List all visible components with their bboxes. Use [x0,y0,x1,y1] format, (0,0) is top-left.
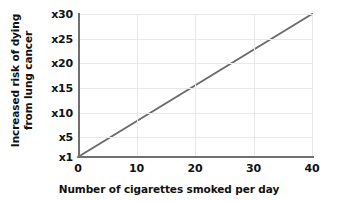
x-axis-tick-label: 10 [129,162,144,175]
x-axis-tick-label: 30 [246,162,261,175]
y-axis-title-line-2: from lung cancer [22,13,35,146]
chart-figure: Increased risk of dying from lung cancer… [0,0,338,201]
y-axis-title-line-1: Increased risk of dying [10,13,23,146]
y-axis-tick-label: x5 [40,131,73,144]
gridline-vertical [312,14,313,157]
gridline-vertical [254,14,255,157]
gridline-vertical [137,14,138,157]
x-axis-title: Number of cigarettes smoked per day [0,183,338,195]
y-axis-tick-label: x15 [40,81,73,94]
x-axis-line [78,156,314,158]
x-axis-tick-label: 20 [188,162,203,175]
gridline-vertical [195,14,196,157]
y-axis-tick-label: x25 [40,32,73,45]
plot-area [78,14,312,157]
y-axis-tick-label: x20 [40,57,73,70]
y-axis-line [78,13,80,158]
x-axis-tick-labels: 010203040 [0,162,338,180]
x-axis-tick-label: 0 [74,162,81,175]
x-axis-tick-label: 40 [305,162,320,175]
y-axis-tick-label: x10 [40,106,73,119]
y-axis-tick-label: x30 [40,8,73,21]
y-axis-title: Increased risk of dying from lung cancer [0,0,44,160]
